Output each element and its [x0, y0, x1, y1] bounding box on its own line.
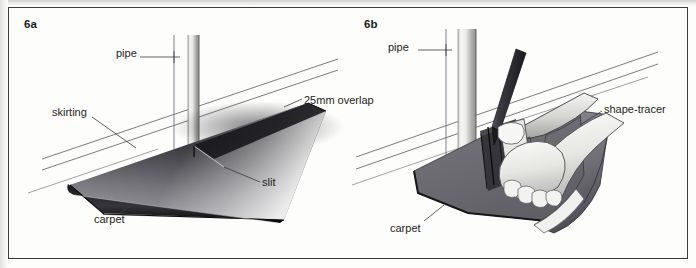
- label-carpet-6a: carpet: [94, 214, 125, 225]
- label-slit-6a: slit: [262, 177, 275, 188]
- carpet-sheet-6a: [67, 101, 344, 223]
- illustration-6a: [8, 7, 348, 259]
- figure-panel-6b: 6b: [348, 7, 688, 259]
- label-pipe-6a: pipe: [116, 48, 137, 59]
- label-skirting-6a: skirting: [52, 107, 87, 118]
- scan-gradient-top: [0, 0, 696, 7]
- scan-gradient-left: [0, 0, 8, 268]
- label-pipe-6b: pipe: [388, 42, 409, 53]
- figure-plate: 6a: [0, 0, 696, 268]
- figure-panel-6a: 6a: [8, 7, 348, 259]
- label-shape-tracer-6b: shape-tracer: [604, 104, 666, 115]
- label-carpet-6b: carpet: [390, 223, 421, 234]
